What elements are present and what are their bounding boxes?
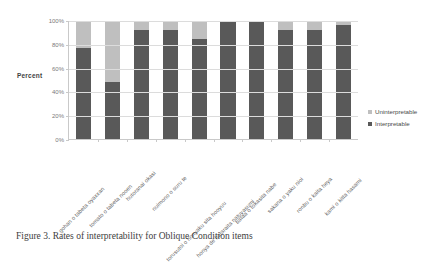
gridline: [69, 21, 358, 22]
stacked-bar[interactable]: [134, 21, 149, 139]
y-tick-mark: [66, 140, 69, 141]
x-tick-label: tomato o tabeta nooen: [87, 183, 132, 228]
bar-segment-uninterpretable: [105, 21, 120, 82]
legend-swatch-icon: [368, 122, 372, 126]
bar-segment-interpretable: [105, 82, 120, 139]
y-tick-label: 60%: [34, 66, 64, 72]
bar-segment-interpretable: [307, 30, 322, 139]
stacked-bar[interactable]: [163, 21, 178, 139]
stacked-bar[interactable]: [76, 21, 91, 139]
x-tick-label: nuimono o suru te: [150, 175, 187, 212]
y-tick-mark: [66, 45, 69, 46]
bar-segment-uninterpretable: [163, 21, 178, 30]
gridline: [69, 45, 358, 46]
stacked-bar[interactable]: [278, 21, 293, 139]
bar-group: [69, 21, 358, 139]
bar-segment-interpretable: [220, 21, 235, 139]
bar-slot: [185, 21, 214, 139]
x-tick-label: bataa o tokasita nabe: [233, 181, 277, 225]
gridline: [69, 92, 358, 93]
y-axis-ticks: 100%80%60%40%20%0%: [30, 6, 64, 141]
bar-segment-uninterpretable: [192, 21, 207, 39]
bar-segment-uninterpretable: [307, 21, 322, 30]
gridline: [69, 116, 358, 117]
y-tick-label: 40%: [34, 89, 64, 95]
bar-slot: [127, 21, 156, 139]
x-tick-label: gohan o tabeta oyaxxan: [57, 186, 105, 234]
stacked-bar[interactable]: [336, 21, 351, 139]
bar-segment-interpretable: [76, 48, 91, 139]
bar-slot: [242, 21, 271, 139]
stacked-bar[interactable]: [307, 21, 322, 139]
legend-item[interactable]: Uninterpretable: [368, 108, 447, 115]
bar-segment-interpretable: [249, 21, 264, 139]
stacked-bar[interactable]: [105, 21, 120, 139]
bar-segment-uninterpretable: [134, 21, 149, 30]
legend-item[interactable]: Interpretable: [368, 120, 447, 127]
stacked-bar[interactable]: [249, 21, 264, 139]
bar-slot: [98, 21, 127, 139]
x-axis-labels: gohan o tabeta oyaxxantomato o tabeta no…: [68, 142, 358, 212]
bar-segment-interpretable: [134, 30, 149, 139]
y-tick-label: 100%: [34, 18, 64, 24]
y-tick-mark: [66, 116, 69, 117]
bar-segment-uninterpretable: [278, 21, 293, 30]
bar-segment-interpretable: [336, 25, 351, 139]
chart-plot-area: Percent 100%80%60%40%20%0% gohan o tabet…: [8, 6, 366, 206]
bar-slot: [271, 21, 300, 139]
legend-label: Interpretable: [375, 120, 410, 127]
y-tick-label: 80%: [34, 42, 64, 48]
stacked-bar[interactable]: [220, 21, 235, 139]
y-tick-mark: [66, 21, 69, 22]
bar-slot: [214, 21, 243, 139]
bar-segment-interpretable: [163, 30, 178, 139]
y-tick-mark: [66, 69, 69, 70]
figure-caption: Figure 3. Rates of interpretability for …: [16, 231, 436, 241]
bar-slot: [69, 21, 98, 139]
y-tick-mark: [66, 92, 69, 93]
bar-slot: [156, 21, 185, 139]
gridline: [69, 69, 358, 70]
bar-segment-interpretable: [278, 30, 293, 139]
chart-legend: UninterpretableInterpretable: [368, 108, 447, 132]
bar-segment-interpretable: [192, 39, 207, 139]
bar-slot: [329, 21, 358, 139]
bar-slot: [300, 21, 329, 139]
plot-box: [68, 21, 358, 140]
legend-label: Uninterpretable: [375, 108, 417, 115]
legend-swatch-icon: [368, 110, 372, 114]
y-tick-label: 0%: [34, 137, 64, 143]
stacked-bar[interactable]: [192, 21, 207, 139]
y-tick-label: 20%: [34, 113, 64, 119]
